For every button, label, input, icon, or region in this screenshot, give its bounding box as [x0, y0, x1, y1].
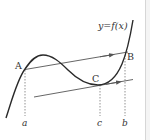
mean-value-theorem-diagram: y=f(x) A B C a c b [0, 0, 150, 140]
secant-arrow [100, 55, 112, 57]
axis-label-b: b [122, 118, 128, 128]
axis-label-a: a [22, 118, 27, 128]
point-label-c: C [92, 73, 99, 84]
point-label-b: B [127, 51, 134, 62]
curve-label: y=f(x) [97, 20, 128, 31]
point-label-a: A [14, 60, 22, 71]
axis-label-c: c [97, 118, 102, 128]
